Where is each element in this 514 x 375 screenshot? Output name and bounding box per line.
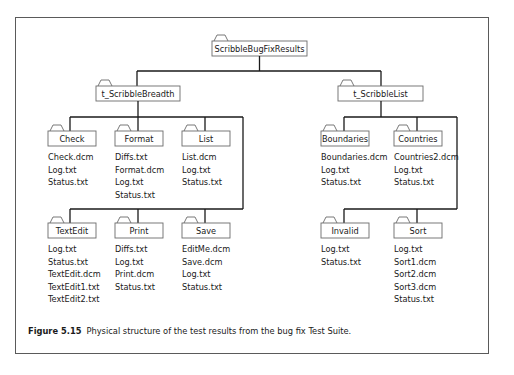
folder-textedit[interactable]: TextEdit (48, 217, 96, 238)
file-name: List.dcm (182, 152, 217, 162)
file-name: Status.txt (182, 282, 223, 292)
folder-icon-tab (50, 125, 64, 131)
folder-label: Format (125, 134, 155, 144)
figure-caption-label: Figure 5.15 (28, 326, 81, 336)
folder-scribblebugfixresults[interactable]: ScribbleBugFixResults (212, 35, 307, 56)
file-name: Format.dcm (115, 165, 164, 175)
file-name: Log.txt (321, 244, 350, 254)
folder-label: Boundaries (322, 134, 368, 144)
file-name: Status.txt (182, 177, 223, 187)
folder-list[interactable]: List (182, 125, 230, 146)
file-name: Status.txt (115, 190, 156, 200)
figure-caption-text: Physical structure of the test results f… (86, 326, 351, 336)
folder-label: Print (130, 226, 150, 236)
folder-countries[interactable]: Countries (394, 125, 442, 146)
folder-label: List (199, 134, 214, 144)
folder-icon-tab (117, 125, 131, 131)
file-name: Status.txt (115, 282, 156, 292)
folder-icon-tab (396, 217, 410, 223)
file-name: Log.txt (321, 165, 350, 175)
file-name: EditMe.dcm (182, 244, 230, 254)
folder-save[interactable]: Save (182, 217, 230, 238)
folder-invalid[interactable]: Invalid (321, 217, 369, 238)
folder-check[interactable]: Check (48, 125, 96, 146)
file-name: Sort2.dcm (394, 269, 436, 279)
folder-label: Sort (410, 226, 428, 236)
file-name: Status.txt (394, 177, 435, 187)
file-name: Log.txt (182, 269, 211, 279)
file-name: Status.txt (321, 257, 362, 267)
folder-icon-tab (184, 125, 198, 131)
folder-t-scribblebreadth[interactable]: t_ScribbleBreadth (96, 80, 180, 101)
file-name: Status.txt (48, 177, 89, 187)
folder-label: Countries (398, 134, 437, 144)
folder-label: ScribbleBugFixResults (215, 44, 305, 54)
folder-tree-diagram: ScribbleBugFixResultst_ScribbleBreadtht_… (0, 0, 514, 375)
file-name: Save.dcm (182, 257, 222, 267)
file-name: Log.txt (48, 244, 77, 254)
folder-icon-tab (184, 217, 198, 223)
folder-icon-tab (214, 35, 228, 41)
folder-boundaries[interactable]: Boundaries (321, 125, 369, 146)
file-name: Log.txt (182, 165, 211, 175)
folder-icon-tab (323, 217, 337, 223)
folder-icon-tab (340, 80, 354, 86)
file-name: Log.txt (115, 257, 144, 267)
file-name: Check.dcm (48, 152, 93, 162)
folder-label: Check (59, 134, 84, 144)
folder-label: t_ScribbleList (353, 89, 408, 99)
folder-format[interactable]: Format (115, 125, 163, 146)
file-name: Log.txt (394, 244, 423, 254)
folder-sort[interactable]: Sort (394, 217, 442, 238)
folder-label: Save (196, 226, 216, 236)
file-name: Status.txt (48, 257, 89, 267)
folder-icon-tab (396, 125, 410, 131)
file-name: Log.txt (48, 165, 77, 175)
file-name: Log.txt (115, 177, 144, 187)
file-name: Status.txt (394, 294, 435, 304)
file-name: Log.txt (394, 165, 423, 175)
figure-caption: Figure 5.15Physical structure of the tes… (28, 326, 351, 336)
file-name: Print.dcm (115, 269, 154, 279)
folder-icon-tab (323, 125, 337, 131)
file-name: Diffs.txt (115, 152, 148, 162)
file-name: Sort3.dcm (394, 282, 436, 292)
file-name: Status.txt (321, 177, 362, 187)
folder-label: TextEdit (55, 226, 89, 236)
file-name: TextEdit.dcm (47, 269, 101, 279)
file-name: Countries2.dcm (394, 152, 459, 162)
folder-label: t_ScribbleBreadth (102, 89, 175, 99)
file-name: TextEdit2.txt (47, 294, 100, 304)
file-name: Sort1.dcm (394, 257, 436, 267)
file-name: TextEdit1.txt (47, 282, 100, 292)
folder-icon-tab (98, 80, 112, 86)
folder-icon-tab (117, 217, 131, 223)
folder-icon-tab (50, 217, 64, 223)
file-name: Diffs.txt (115, 244, 148, 254)
file-name: Boundaries.dcm (321, 152, 387, 162)
folder-label: Invalid (331, 226, 358, 236)
folder-print[interactable]: Print (115, 217, 163, 238)
